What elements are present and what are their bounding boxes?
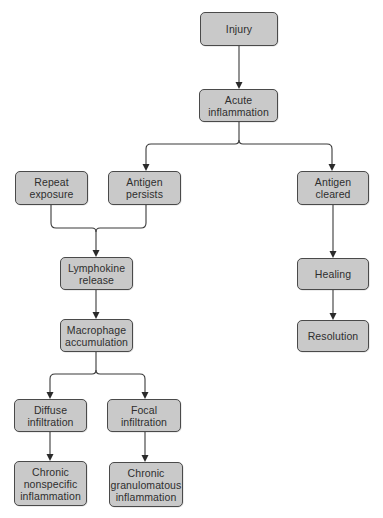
arrowhead — [47, 454, 54, 461]
arrowhead — [330, 313, 337, 320]
edge-macrophage-focal — [96, 370, 145, 393]
node-macrophage-accumulation: Macrophage accumulation — [60, 319, 133, 352]
node-chronic-granulomatous-inflammation: Chronic granulomatous inflammation — [109, 462, 183, 507]
node-diffuse-infiltration: Diffuse infiltration — [14, 399, 87, 432]
node-chronic-nonspecific-inflammation: Chronic nonspecific inflammation — [14, 461, 87, 506]
edge-acute-antigen-persists — [146, 122, 239, 165]
arrowhead — [236, 82, 243, 89]
node-acute-inflammation: Acute inflammation — [199, 89, 278, 122]
node-repeat-exposure: Repeat exposure — [15, 171, 88, 205]
node-antigen-persists: Antigen persists — [108, 171, 181, 205]
arrowhead — [143, 164, 150, 171]
arrowhead — [93, 312, 100, 319]
edge-persists-lymphokine — [96, 205, 146, 251]
node-healing: Healing — [297, 258, 369, 290]
arrowhead — [47, 392, 54, 399]
arrowhead — [93, 250, 100, 257]
node-injury: Injury — [200, 12, 278, 46]
inflammation-flowchart: Injury Acute inflammation Repeat exposur… — [0, 0, 383, 518]
node-lymphokine-release: Lymphokine release — [60, 257, 133, 290]
node-focal-infiltration: Focal infiltration — [107, 399, 181, 432]
arrowhead — [142, 392, 149, 399]
arrowhead — [142, 455, 149, 462]
node-antigen-cleared: Antigen cleared — [297, 171, 369, 205]
edge-repeat-lymphokine — [51, 205, 96, 232]
edge-acute-antigen-cleared — [239, 140, 332, 165]
arrowhead — [330, 251, 337, 258]
node-resolution: Resolution — [297, 320, 369, 352]
arrowhead — [329, 164, 336, 171]
edge-macrophage-diffuse — [50, 352, 96, 393]
